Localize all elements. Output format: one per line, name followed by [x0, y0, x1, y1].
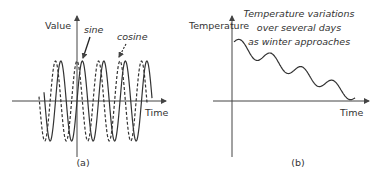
panel-a-caption: (a) [76, 157, 89, 168]
x-axis-label: Time [144, 107, 168, 118]
panel-a: Value sine cosine Time (a) [12, 16, 168, 168]
cosine-pointer-arrow [119, 44, 126, 57]
y-axis-label: Value [45, 20, 71, 31]
x-axis-label: Time [339, 107, 363, 118]
annotation-line-3: as winter approaches [248, 36, 350, 47]
sine-label: sine [84, 24, 104, 35]
panel-b: Temperature Temperature variations over … [188, 8, 369, 168]
cosine-label: cosine [117, 31, 148, 42]
annotation-line-2: over several days [257, 22, 341, 33]
sine-pointer-arrow [83, 37, 90, 58]
panel-b-caption: (b) [291, 157, 304, 168]
figure-canvas: Value sine cosine Time (a) Temperature T… [0, 0, 377, 188]
y-axis-label: Temperature [188, 20, 249, 31]
temperature-curve [234, 39, 355, 99]
annotation-line-1: Temperature variations [244, 8, 355, 19]
